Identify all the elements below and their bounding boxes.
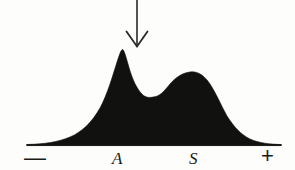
axis-label-positive: + bbox=[261, 145, 274, 167]
density-curve-fill bbox=[27, 50, 281, 146]
axis-tick-label-s: S bbox=[189, 150, 198, 167]
axis-label-negative: — bbox=[24, 147, 46, 169]
distribution-figure: — A S + bbox=[0, 0, 295, 170]
axis-tick-label-a: A bbox=[112, 150, 122, 167]
